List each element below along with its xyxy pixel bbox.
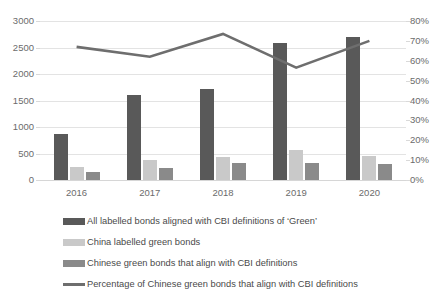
legend-bar-swatch-icon xyxy=(63,218,85,225)
category-axis-label: 2016 xyxy=(52,187,102,198)
legend-item-label: Percentage of Chinese green bonds that a… xyxy=(87,279,358,289)
legend-item[interactable]: Chinese green bonds that align with CBI … xyxy=(0,253,442,274)
category-axis-label: 2020 xyxy=(344,187,394,198)
legend-item-label: All labelled bonds aligned with CBI defi… xyxy=(87,216,317,226)
legend-item-label: Chinese green bonds that align with CBI … xyxy=(87,258,297,268)
line-path xyxy=(77,34,370,68)
percentage-line-series xyxy=(0,0,442,205)
legend-item[interactable]: Percentage of Chinese green bonds that a… xyxy=(0,274,442,295)
legend-bar-swatch-icon xyxy=(63,239,85,246)
combo-chart: 050010001500200025003000 0%10%20%30%40%5… xyxy=(0,0,442,306)
category-axis-label: 2019 xyxy=(271,187,321,198)
legend-item[interactable]: China labelled green bonds xyxy=(0,232,442,253)
legend-line-swatch-icon xyxy=(63,283,85,286)
chart-legend: All labelled bonds aligned with CBI defi… xyxy=(0,211,442,295)
category-axis-label: 2017 xyxy=(125,187,175,198)
legend-bar-swatch-icon xyxy=(63,260,85,267)
plot-area: 050010001500200025003000 0%10%20%30%40%5… xyxy=(0,0,442,205)
legend-item[interactable]: All labelled bonds aligned with CBI defi… xyxy=(0,211,442,232)
category-axis-label: 2018 xyxy=(198,187,248,198)
legend-item-label: China labelled green bonds xyxy=(87,237,200,247)
